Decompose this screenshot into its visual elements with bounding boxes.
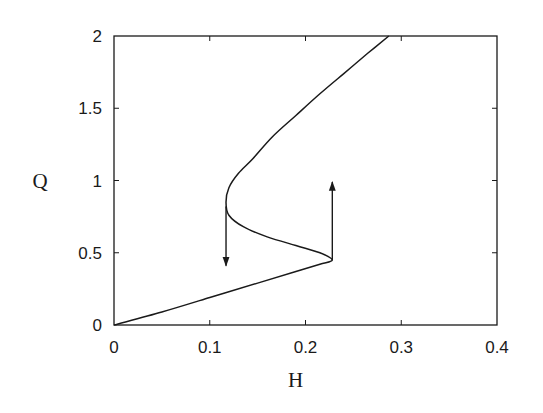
y-tick-label: 1 [93, 172, 102, 191]
y-tick-label: 0 [93, 316, 102, 335]
x-axis-label: H [288, 368, 303, 392]
y-axis-label: Q [32, 169, 47, 193]
x-tick-label: 0.1 [198, 338, 222, 357]
y-axis: 00.511.52 [78, 27, 497, 335]
annotations [226, 182, 332, 266]
chart: 00.10.20.30.4 00.511.52 H Q [0, 0, 543, 413]
y-tick-label: 0.5 [78, 244, 102, 263]
x-tick-label: 0.2 [294, 338, 318, 357]
x-tick-label: 0.4 [485, 338, 509, 357]
y-tick-label: 1.5 [78, 99, 102, 118]
y-tick-label: 2 [93, 27, 102, 46]
series-line [114, 36, 389, 325]
x-axis: 00.10.20.30.4 [109, 36, 509, 357]
x-tick-label: 0.3 [389, 338, 413, 357]
plot-frame [114, 36, 497, 325]
x-tick-label: 0 [109, 338, 118, 357]
